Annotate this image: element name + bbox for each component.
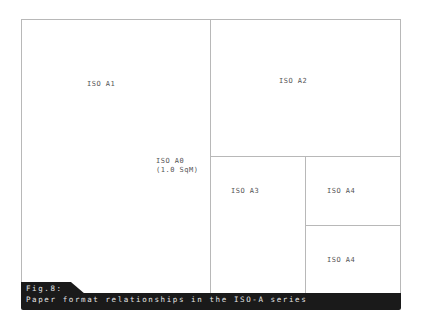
divider-a4-a4 (305, 225, 401, 226)
label-a1: ISO A1 (87, 80, 115, 89)
label-a0: ISO A0 (156, 157, 184, 166)
caption-text: Paper format relationships in the ISO-A … (26, 295, 307, 304)
frame-top (21, 19, 401, 20)
label-a0-area: (1.0 SqM) (156, 166, 198, 175)
label-a4-bottom: ISO A4 (327, 256, 355, 265)
label-a3: ISO A3 (231, 187, 259, 196)
label-a4-top: ISO A4 (327, 187, 355, 196)
figure-number: Fig.8: (26, 284, 63, 293)
label-a2: ISO A2 (279, 77, 307, 86)
frame-left (21, 19, 22, 294)
